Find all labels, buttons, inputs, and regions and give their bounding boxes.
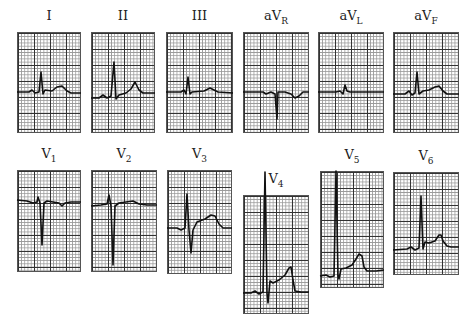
lead-V5: V5 bbox=[320, 171, 384, 288]
lead-label: V5 bbox=[320, 147, 384, 165]
ecg-trace bbox=[17, 170, 81, 272]
lead-aVF: aVF bbox=[393, 32, 459, 133]
lead-label: V6 bbox=[393, 148, 459, 166]
lead-label: V2 bbox=[91, 146, 157, 164]
lead-aVL: aVL bbox=[318, 32, 384, 133]
lead-label: aVL bbox=[318, 8, 384, 26]
lead-label: III bbox=[166, 8, 233, 23]
lead-V6: V6 bbox=[393, 172, 459, 275]
ecg-trace bbox=[243, 195, 309, 314]
ecg-trace bbox=[243, 32, 309, 133]
lead-aVR: aVR bbox=[243, 32, 309, 133]
lead-label: V1 bbox=[17, 146, 81, 164]
lead-V1: V1 bbox=[17, 170, 81, 272]
lead-label: V4 bbox=[243, 171, 309, 189]
lead-label: V3 bbox=[167, 146, 232, 164]
lead-label: aVR bbox=[243, 8, 309, 26]
lead-label: II bbox=[91, 8, 155, 23]
ecg-trace bbox=[167, 170, 232, 274]
ecg-trace bbox=[320, 171, 384, 288]
ecg-trace bbox=[166, 32, 233, 133]
ecg-trace bbox=[393, 172, 459, 275]
lead-V3: V3 bbox=[167, 170, 232, 274]
lead-label: I bbox=[17, 8, 81, 23]
lead-V2: V2 bbox=[91, 170, 157, 272]
ecg-trace bbox=[17, 32, 81, 133]
lead-III: III bbox=[166, 32, 233, 133]
ecg-trace bbox=[393, 32, 459, 133]
ecg-trace bbox=[91, 170, 157, 272]
ecg-trace bbox=[318, 32, 384, 133]
lead-label: aVF bbox=[393, 8, 459, 26]
lead-II: II bbox=[91, 32, 155, 133]
ecg-trace bbox=[91, 32, 155, 133]
lead-I: I bbox=[17, 32, 81, 133]
lead-V4: V4 bbox=[243, 195, 309, 314]
